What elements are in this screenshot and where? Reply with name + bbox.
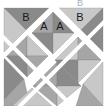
partial-top-label: B: [77, 0, 83, 8]
piece-label-a: A: [56, 20, 64, 32]
piece-label-b: B: [22, 11, 29, 23]
piece-label-a: A: [40, 20, 48, 32]
piece-label-b: B: [76, 11, 83, 23]
quilt-block-diagram: B BAAB: [0, 0, 107, 106]
